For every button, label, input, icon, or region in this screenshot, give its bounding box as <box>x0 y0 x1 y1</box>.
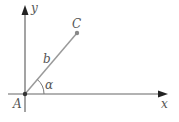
coordinate-diagram: y x C A b α <box>0 0 179 122</box>
angle-alpha-arc <box>37 80 44 95</box>
y-axis-arrowhead-icon <box>22 5 29 15</box>
y-axis-label: y <box>30 1 38 15</box>
point-c-label: C <box>72 17 81 31</box>
segment-b-label: b <box>43 52 51 66</box>
point-c <box>75 31 79 35</box>
angle-alpha-label: α <box>45 78 53 92</box>
x-axis-label: x <box>161 97 168 111</box>
x-axis <box>8 91 168 98</box>
point-a <box>23 92 27 96</box>
point-a-label: A <box>12 97 22 111</box>
